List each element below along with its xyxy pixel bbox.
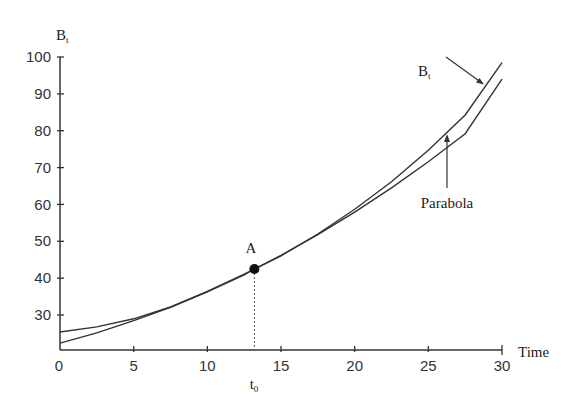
x-tick-0: 0 (55, 357, 63, 374)
t0-label: t0 (250, 376, 259, 394)
x-tick-20: 20 (346, 357, 363, 374)
y-tick-50: 50 (34, 232, 51, 249)
parabola-curve-label: Parabola (421, 195, 474, 211)
x-tick-30: 30 (494, 357, 511, 374)
bt-arrow (446, 57, 482, 83)
x-axis-label: Time (518, 344, 549, 360)
y-tick-90: 90 (34, 85, 51, 102)
bt-curve-label: Bt (418, 63, 431, 81)
x-tick-labels: 0 5 10 15 20 25 30 (55, 357, 511, 374)
y-tick-100: 100 (26, 48, 51, 65)
point-a (249, 264, 259, 274)
x-tick-25: 25 (420, 357, 437, 374)
y-tick-70: 70 (34, 159, 51, 176)
x-tick-10: 10 (199, 357, 216, 374)
y-axis-label: Bt (56, 27, 69, 45)
y-tick-30: 30 (34, 306, 51, 323)
y-tick-40: 40 (34, 269, 51, 286)
x-tick-15: 15 (273, 357, 290, 374)
point-a-label: A (246, 240, 257, 256)
y-tick-60: 60 (34, 196, 51, 213)
chart: 100 90 80 70 60 50 40 30 0 5 10 15 20 25… (0, 0, 581, 407)
y-tick-80: 80 (34, 122, 51, 139)
x-tick-5: 5 (130, 357, 138, 374)
y-tick-labels: 100 90 80 70 60 50 40 30 (26, 48, 51, 323)
